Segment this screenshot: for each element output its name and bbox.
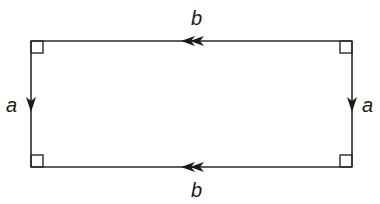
label-right-a: a xyxy=(362,94,373,116)
label-top-b: b xyxy=(191,7,202,29)
corner-marker-top-right xyxy=(340,41,352,53)
corner-marker-bottom-right xyxy=(340,155,352,167)
rectangle-diagram: b a a b xyxy=(0,0,380,204)
corner-marker-bottom-left xyxy=(31,155,43,167)
label-left-a: a xyxy=(6,94,17,116)
label-bottom-b: b xyxy=(191,179,202,201)
corner-marker-top-left xyxy=(31,41,43,53)
